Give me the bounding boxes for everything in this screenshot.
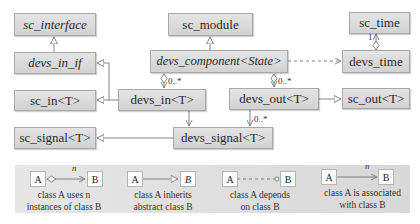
legend: A B n class A uses n instances of class … — [15, 165, 410, 213]
legend-caption-associated: class A is associated with class B — [315, 187, 410, 211]
class-sc-module: sc_module — [168, 13, 253, 36]
multiplicity-out-signal: 0..* — [254, 114, 268, 124]
legend-n-label: n — [72, 163, 77, 173]
class-sc-out: sc_out<T> — [342, 88, 410, 109]
multiplicity-time: 1 — [368, 32, 373, 42]
class-devs-time: devs_time — [342, 50, 410, 73]
legend-caption-depends: class A depends on class B — [215, 189, 305, 213]
multiplicity-component-out: 0..* — [278, 76, 292, 86]
class-devs-in: devs_in<T> — [118, 89, 206, 111]
class-sc-time: sc_time — [349, 12, 410, 34]
class-sc-signal: sc_signal<T> — [14, 127, 96, 149]
multiplicity-component-in: 0..* — [168, 76, 182, 86]
class-devs-in-if: devs_in_if — [14, 52, 96, 74]
legend-class-a: A — [127, 171, 143, 187]
legend-class-a: A — [222, 171, 238, 187]
legend-abstract-class-b: B — [180, 171, 196, 187]
class-sc-interface: sc_interface — [14, 13, 96, 36]
legend-class-a: A — [321, 169, 337, 185]
class-devs-signal: devs_signal<T> — [173, 127, 273, 149]
class-devs-component: devs_component<State> — [150, 50, 288, 73]
class-devs-out: devs_out<T> — [229, 88, 319, 110]
legend-class-a: A — [30, 171, 46, 187]
legend-class-b: B — [87, 171, 103, 187]
legend-class-b: B — [378, 169, 394, 185]
class-sc-in: sc_in<T> — [14, 90, 96, 111]
legend-caption-uses: class A uses n instances of class B — [15, 189, 113, 213]
legend-class-b: B — [280, 171, 296, 187]
legend-n-label: n — [365, 161, 370, 171]
legend-caption-inherits: class A inherits abstract class B — [120, 189, 206, 213]
